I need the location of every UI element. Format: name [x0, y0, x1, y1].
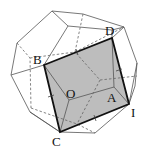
label-B: B: [33, 52, 42, 67]
label-D: D: [105, 23, 114, 38]
right-lower-edge: [129, 63, 137, 104]
hidden-edge-1: [17, 43, 31, 108]
label-O: O: [66, 86, 75, 101]
label-C: C: [52, 134, 61, 149]
polyhedron-diagram: B D O A I C: [0, 0, 147, 159]
label-I: I: [131, 105, 135, 120]
label-A: A: [107, 90, 117, 105]
